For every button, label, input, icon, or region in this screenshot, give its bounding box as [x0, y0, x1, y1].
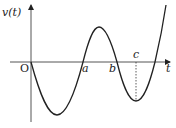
x-axis-label: t	[166, 62, 171, 75]
v-curve	[31, 5, 166, 115]
point-c-label: c	[133, 48, 139, 61]
y-axis-label: v(t)	[2, 6, 21, 19]
point-b-label: b	[109, 62, 116, 75]
velocity-graph: v(t) t O a b c	[0, 0, 176, 128]
origin-label: O	[20, 62, 29, 75]
point-a-label: a	[82, 62, 89, 75]
